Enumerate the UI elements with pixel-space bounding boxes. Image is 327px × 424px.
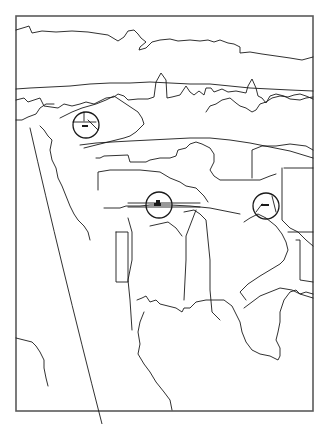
marker-1-glyph [82,125,88,127]
picture-frame [16,16,313,411]
line-drawing-canvas [0,0,327,424]
